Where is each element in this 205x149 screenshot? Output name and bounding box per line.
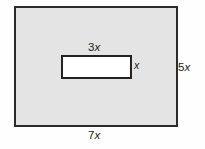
inner-white-rectangle [61,55,132,79]
label-outer-rectangle-height: 5x [178,61,190,73]
label-inner-rectangle-height: x [134,59,139,71]
outer-height-variable: x [184,61,190,73]
geometry-figure: 3x x 5x 7x [0,0,205,149]
label-outer-rectangle-width: 7x [88,129,100,141]
label-inner-rectangle-width: 3x [88,41,100,53]
inner-width-variable: x [94,41,100,53]
inner-height-variable: x [134,59,139,71]
outer-width-variable: x [94,129,100,141]
